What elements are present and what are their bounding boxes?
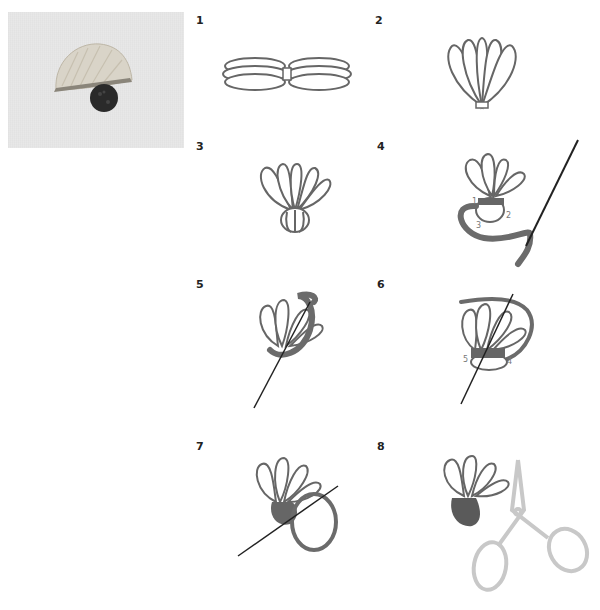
step-3-gathered-illustration [255,162,335,237]
finished-stitch-photo [8,12,184,148]
step-2-fan-illustration [442,36,522,111]
step-1-loops-illustration [222,44,352,104]
step-number-7: 7 [196,440,204,453]
point-label-3: 3 [476,221,481,230]
step-number-5: 5 [196,278,204,291]
step-5-stitch-illustration [250,290,340,410]
step-8-trim-illustration [438,450,598,600]
step-4-wrap-illustration: 1 2 3 [440,138,590,273]
step-6-stitch-illustration: 5 4 [455,290,545,410]
point-label-1: 1 [472,197,477,206]
step-number-1: 1 [196,14,204,27]
step-7-stitch-illustration [236,452,356,562]
step-number-3: 3 [196,140,204,153]
point-label-2: 2 [506,211,511,220]
point-label-4: 4 [507,357,512,366]
step-number-6: 6 [377,278,385,291]
step-number-8: 8 [377,440,385,453]
step-number-4: 4 [377,140,385,153]
point-label-5: 5 [463,355,468,364]
step-number-2: 2 [375,14,383,27]
